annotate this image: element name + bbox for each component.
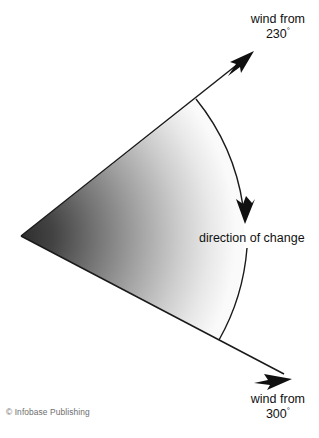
bearing-value-300: 300 (266, 407, 287, 421)
wind-direction-diagram (0, 0, 319, 438)
label-wind-from-230: wind from 230° (251, 12, 305, 42)
label-wind-from-300-line1: wind from (251, 392, 305, 407)
label-wind-from-230-line1: wind from (251, 12, 305, 27)
sector-shape (21, 99, 244, 340)
degree-symbol-icon: ° (287, 406, 290, 415)
label-wind-from-300-line2: 300° (251, 407, 305, 422)
degree-symbol-icon: ° (287, 26, 290, 35)
arrowhead-icon (228, 51, 254, 76)
bearing-value-230: 230 (266, 27, 287, 41)
label-wind-from-230-line2: 230° (251, 27, 305, 42)
publisher-credit: © Infobase Publishing (6, 408, 90, 418)
arrowhead-icon (254, 374, 292, 390)
label-direction-of-change: direction of change (199, 231, 305, 246)
label-wind-from-300: wind from 300° (251, 392, 305, 422)
